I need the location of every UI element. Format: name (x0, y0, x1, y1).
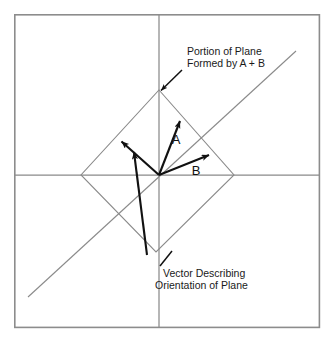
callout-orientation-line-2: Orientation of Plane (155, 279, 248, 291)
callout-portion-line-1: Portion of Plane (187, 45, 262, 57)
callout-portion-line-2: Formed by A + B (187, 57, 265, 69)
vector-a-label: A (172, 132, 181, 147)
callout-orientation-line-1: Vector Describing (163, 267, 245, 279)
vector-plane-diagram: A B Portion of Plane Formed by A + B Vec… (0, 0, 334, 350)
vector-b-label: B (192, 163, 201, 178)
diagram-canvas: A B Portion of Plane Formed by A + B Vec… (0, 0, 334, 350)
